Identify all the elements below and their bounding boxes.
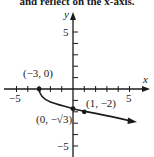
- x-axis-arrow-icon: [142, 86, 150, 92]
- x-tick-label-neg5: −5: [9, 92, 21, 104]
- y-axis-arrow-icon: [70, 12, 76, 20]
- point-label-0-negsqrt3: (0, −√3): [36, 113, 72, 126]
- point-0-negsqrt3: [71, 106, 76, 111]
- point-neg3-0: [37, 87, 42, 92]
- curve-arrow-icon: [128, 118, 138, 125]
- graph: y x −5 5 5 −5 (−3, 0) (0, −√3) (1, −2): [0, 0, 154, 157]
- point-1-neg2: [82, 109, 87, 114]
- y-tick-label-neg5: −5: [57, 140, 69, 152]
- x-axis-label: x: [142, 73, 148, 85]
- y-axis-label: y: [63, 8, 69, 20]
- point-label-neg3-0: (−3, 0): [23, 67, 53, 80]
- x-tick-label-5: 5: [126, 92, 132, 104]
- y-tick-label-5: 5: [63, 26, 69, 38]
- point-label-1-neg2: (1, −2): [86, 97, 116, 110]
